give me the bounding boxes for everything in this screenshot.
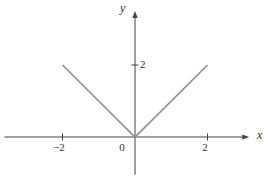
absolute-value-plot: x y −2 2 2 0: [0, 0, 275, 186]
x-axis-label: x: [257, 128, 262, 142]
x-tick-label-pos2: 2: [196, 141, 214, 154]
plot-canvas: [0, 0, 275, 186]
origin-label: 0: [117, 141, 127, 154]
x-tick-label-neg2: −2: [48, 141, 70, 154]
y-axis-label: y: [120, 1, 125, 15]
y-axis-arrow-icon: [132, 11, 137, 18]
y-tick-label-2: 2: [140, 58, 146, 71]
x-axis-arrow-icon: [242, 134, 249, 139]
